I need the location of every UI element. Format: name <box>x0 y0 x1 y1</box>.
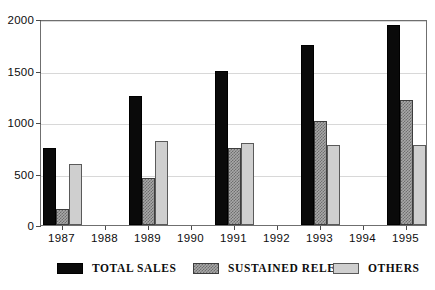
bar-total-sales-1989 <box>129 96 142 225</box>
x-tick-label-1989: 1989 <box>134 232 161 244</box>
y-tick-label: 1500 <box>0 66 34 78</box>
y-tick-label: 2000 <box>0 14 34 26</box>
bar-others-1995 <box>413 145 426 225</box>
light-gray-swatch <box>333 263 359 274</box>
bar-sustained-release-1993 <box>314 121 327 225</box>
gray-checkered-swatch <box>193 263 219 274</box>
y-tick-mark <box>36 226 41 227</box>
y-tick-mark <box>36 72 41 73</box>
y-tick-mark <box>36 20 41 21</box>
y-tick-label: 0 <box>0 220 34 232</box>
x-tick-mark <box>234 226 235 230</box>
x-tick-label-1987: 1987 <box>48 232 75 244</box>
black-solid-swatch <box>57 263 83 274</box>
y-tick-label: 1000 <box>0 117 34 129</box>
x-tick-mark <box>105 226 106 230</box>
gridline <box>41 21 426 22</box>
bar-others-1991 <box>241 143 254 225</box>
x-tick-label-1992: 1992 <box>263 232 290 244</box>
x-tick-mark <box>148 226 149 230</box>
bar-others-1989 <box>155 141 168 225</box>
x-tick-label-1994: 1994 <box>349 232 376 244</box>
x-tick-mark <box>363 226 364 230</box>
x-tick-mark <box>320 226 321 230</box>
bar-sustained-release-1987 <box>56 209 69 225</box>
x-tick-mark <box>277 226 278 230</box>
plot-area <box>40 20 427 226</box>
gridline <box>41 124 426 125</box>
legend-label: TOTAL SALES <box>92 262 176 274</box>
y-tick-mark <box>36 175 41 176</box>
x-tick-label-1991: 1991 <box>220 232 247 244</box>
bar-total-sales-1987 <box>43 148 56 225</box>
x-tick-label-1990: 1990 <box>177 232 204 244</box>
chart-legend: TOTAL SALESSUSTAINED RELEASEOTHERS <box>0 258 435 286</box>
y-tick-mark <box>36 123 41 124</box>
x-tick-mark <box>406 226 407 230</box>
bar-total-sales-1991 <box>215 71 228 226</box>
bar-total-sales-1993 <box>301 45 314 225</box>
bar-others-1987 <box>69 164 82 225</box>
x-tick-label-1988: 1988 <box>91 232 118 244</box>
x-tick-mark <box>191 226 192 230</box>
gridline <box>41 73 426 74</box>
x-tick-label-1995: 1995 <box>392 232 419 244</box>
y-tick-label: 500 <box>0 169 34 181</box>
plot-inner <box>41 21 426 225</box>
bar-chart: 0500100015002000 19871988198919901991199… <box>0 0 435 290</box>
legend-label: OTHERS <box>368 262 420 274</box>
bar-sustained-release-1991 <box>228 148 241 225</box>
x-tick-mark <box>62 226 63 230</box>
bar-others-1993 <box>327 145 340 225</box>
bar-sustained-release-1995 <box>400 100 413 225</box>
bar-total-sales-1995 <box>387 25 400 225</box>
legend-item-total-sales: TOTAL SALES <box>57 258 176 278</box>
legend-item-others: OTHERS <box>333 258 420 278</box>
bar-sustained-release-1989 <box>142 178 155 225</box>
x-tick-label-1993: 1993 <box>306 232 333 244</box>
